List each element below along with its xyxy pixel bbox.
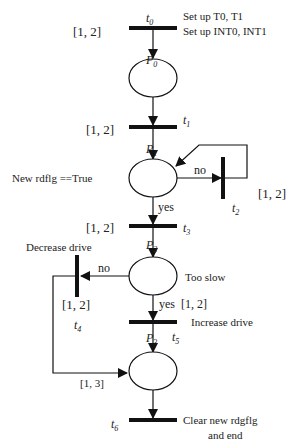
t6-annotation-1: Clear new rdgflg xyxy=(183,414,258,426)
svg-text:P1: P1 xyxy=(145,142,157,158)
transition-t1: t1 [1, 2] xyxy=(86,113,190,137)
t1-interval: [1, 2] xyxy=(86,122,114,137)
p1-no-label: no xyxy=(194,163,206,177)
svg-text:t5: t5 xyxy=(172,330,179,346)
t4-p3-interval: [1, 3] xyxy=(80,377,104,389)
transition-t4: Decrease drive [1, 2] t4 xyxy=(26,241,92,334)
place-p1: P1 New rdflg ==True xyxy=(12,142,177,197)
transition-t0: t0 [1, 2] Set up T0, T1 Set up INT0, INT… xyxy=(73,10,267,39)
svg-text:t6: t6 xyxy=(111,417,118,433)
svg-text:t4: t4 xyxy=(74,318,81,334)
p1-yes-label: yes xyxy=(158,200,174,214)
t0-interval: [1, 2] xyxy=(73,24,101,39)
t0-annotation-1: Set up T0, T1 xyxy=(183,10,243,22)
place-p0: P0 xyxy=(129,53,177,97)
svg-text:t0: t0 xyxy=(146,11,153,27)
petri-net-diagram: t0 [1, 2] Set up T0, T1 Set up INT0, INT… xyxy=(0,0,299,448)
svg-text:P0: P0 xyxy=(145,53,157,69)
t6-annotation-2: and end xyxy=(208,429,243,441)
place-p3: P3 xyxy=(129,331,177,390)
svg-text:t3: t3 xyxy=(183,221,190,237)
t0-annotation-2: Set up INT0, INT1 xyxy=(183,25,267,37)
svg-text:t1: t1 xyxy=(183,113,190,129)
svg-text:P2: P2 xyxy=(145,238,157,254)
transition-t3: t3 [1, 2] xyxy=(86,220,190,237)
p2-no-label: no xyxy=(98,261,110,275)
p2-condition: Too slow xyxy=(185,271,226,283)
p2-yes-label: yes xyxy=(159,297,175,311)
t3-interval: [1, 2] xyxy=(86,220,114,235)
t5-annotation: Increase drive xyxy=(191,316,253,328)
place-p2: P2 Too slow xyxy=(129,238,226,295)
t2-interval: [1, 2] xyxy=(258,186,286,201)
t4-annotation: Decrease drive xyxy=(26,241,92,253)
svg-text:P3: P3 xyxy=(145,331,157,347)
t5-interval: [1, 2] xyxy=(181,297,207,311)
transition-t6: t6 Clear new rdgflg and end xyxy=(111,414,258,441)
t4-interval: [1, 2] xyxy=(62,297,90,312)
svg-text:t2: t2 xyxy=(232,201,239,217)
p1-condition: New rdflg ==True xyxy=(12,172,93,184)
transition-t2: t2 [1, 2] xyxy=(221,157,286,217)
